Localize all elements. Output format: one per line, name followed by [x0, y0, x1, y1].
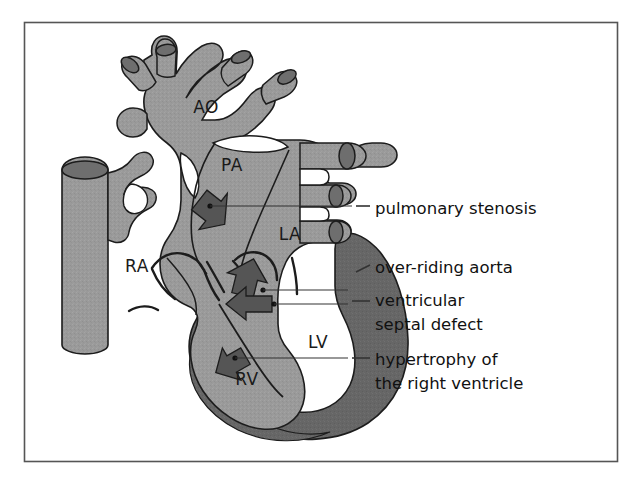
chamber-label-la: LA	[279, 224, 302, 244]
svc-lumen-opening	[62, 161, 108, 179]
pulmonary-artery-right-branch	[300, 143, 366, 169]
callout-label-hypertrophy-line2: the right ventricle	[375, 374, 523, 393]
callout-label-pulmonary-stenosis: pulmonary stenosis	[375, 199, 537, 218]
callout-label-ventricular-septal-defect-line2: septal defect	[375, 315, 483, 334]
heart-diagram-svg: AO PA LA RA LV RV pulmonary stenosis ove…	[0, 0, 632, 483]
chamber-label-ra: RA	[125, 256, 149, 276]
vessel-notch-upper	[300, 169, 329, 185]
pulmonary-vein-lower-lumen	[329, 221, 343, 243]
callout-label-hypertrophy-line1: hypertrophy of	[375, 350, 499, 369]
vessel-notch-lower	[300, 207, 329, 221]
chamber-label-lv: LV	[308, 332, 328, 352]
chamber-label-pa: PA	[221, 155, 243, 175]
callout-label-ventricular-septal-defect-line1: ventricular	[375, 291, 464, 310]
pa-right-branch-lumen	[339, 143, 355, 169]
callout-label-over-riding-aorta: over-riding aorta	[375, 258, 513, 277]
heart-diagram-figure: AO PA LA RA LV RV pulmonary stenosis ove…	[0, 0, 632, 483]
pulmonary-vein-upper-lumen	[329, 185, 343, 207]
chamber-label-ao: AO	[193, 97, 219, 117]
superior-vena-cava	[62, 157, 108, 354]
coronary-bump	[117, 108, 147, 137]
chamber-label-rv: RV	[235, 369, 259, 389]
